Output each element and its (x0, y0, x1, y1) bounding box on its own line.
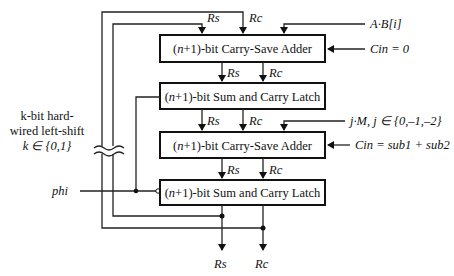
rs-label-2: Rs (206, 114, 220, 128)
ab-input-label: A·B[i] (369, 17, 402, 31)
cin1-label: Cin = 0 (370, 42, 410, 56)
rs-label-1: Rs (226, 66, 240, 80)
jm-input-wire (284, 121, 345, 130)
rs-label-3: Rs (226, 163, 240, 177)
shift-note-line2: wired left-shift (10, 124, 85, 138)
svg-text:(n+1)-bit Carry-Save Adder: (n+1)-bit Carry-Save Adder (173, 42, 313, 56)
rc-junction-dot (261, 226, 266, 231)
rc-label-3: Rc (268, 163, 283, 177)
carry-save-adder-1: (n+1)-bit Carry-Save Adder (160, 35, 325, 62)
sum-carry-latch-2: (n+1)-bit Sum and Carry Latch (160, 180, 325, 205)
phi-latch1-wire (136, 97, 160, 191)
shift-note-line3: k ∈ {0,1} (23, 139, 71, 153)
rc-label-2: Rc (248, 114, 263, 128)
rs-output-label: Rs (213, 257, 227, 271)
svg-text:(n+1)-bit Carry-Save Adder: (n+1)-bit Carry-Save Adder (173, 139, 313, 153)
csa-datapath-diagram: (n+1)-bit Carry-Save Adder (n+1)-bit Sum… (0, 0, 454, 276)
cin2-label: Cin = sub1 + sub2 (355, 138, 450, 152)
rs-label-top: Rs (206, 11, 220, 25)
sum-carry-latch-1: (n+1)-bit Sum and Carry Latch (160, 83, 325, 109)
ab-input-wire (284, 24, 365, 33)
carry-save-adder-2: (n+1)-bit Carry-Save Adder (160, 132, 325, 158)
rc-label-1: Rc (268, 66, 283, 80)
shift-note-line1: k-bit hard- (20, 109, 73, 123)
rc-label-top: Rc (248, 11, 263, 25)
svg-text:(n+1)-bit Sum and Carry Latch: (n+1)-bit Sum and Carry Latch (165, 90, 321, 104)
rc-output-label: Rc (254, 257, 269, 271)
phi-label: phi (51, 184, 69, 198)
svg-text:(n+1)-bit Sum and Carry Latch: (n+1)-bit Sum and Carry Latch (165, 186, 321, 200)
rs-junction-dot (220, 214, 225, 219)
shift-break-symbol (94, 146, 124, 156)
jm-input-label: j·M, j ∈ {0,–1,–2} (348, 114, 441, 128)
phi-junction-dot (134, 189, 139, 194)
